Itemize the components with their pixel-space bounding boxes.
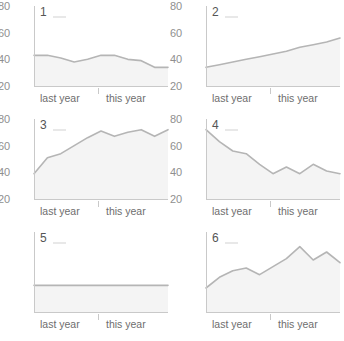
panel-number-3: 3 (40, 118, 47, 132)
y-axis-tick-label: 40 (0, 166, 28, 178)
legend-line-swatch (225, 242, 238, 244)
y-axis-tick-label: 80 (170, 113, 200, 125)
x-axis-divider-tick (98, 88, 99, 94)
x-axis-divider-tick (270, 201, 271, 207)
series-area-fill (34, 130, 168, 199)
x-axis-labels: last yearthis year (34, 316, 168, 334)
chart-panel-1: 806040201last yearthis year (0, 0, 172, 113)
chart-panel-4: 806040204last yearthis year (172, 113, 344, 226)
x-axis-labels: last yearthis year (206, 203, 340, 221)
y-axis-tick-label: 20 (0, 80, 28, 92)
plot-area-3 (34, 119, 168, 199)
legend-line-swatch (53, 16, 66, 18)
y-axis-tick-label: 40 (170, 166, 200, 178)
x-axis-labels: last yearthis year (206, 316, 340, 334)
x-axis-tick-label-this-year: this year (106, 205, 146, 217)
x-axis-tick-label-last-year: last year (40, 92, 80, 104)
x-axis-tick-label-this-year: this year (278, 92, 318, 104)
y-axis-tick-label: 40 (170, 53, 200, 65)
x-axis-tick-label-last-year: last year (40, 318, 80, 330)
plot-area-2 (206, 6, 340, 86)
x-axis-tick-label-last-year: last year (40, 205, 80, 217)
panel-number-4: 4 (212, 118, 219, 132)
series-area-fill (34, 285, 168, 312)
x-axis-tick-label-this-year: this year (278, 318, 318, 330)
chart-panel-3: 806040203last yearthis year (0, 113, 172, 226)
small-multiples-chart-grid: 806040201last yearthis year806040202last… (0, 0, 344, 341)
legend-line-swatch (53, 129, 66, 131)
legend-line-swatch (53, 242, 66, 244)
y-axis-tick-label: 60 (0, 140, 28, 152)
x-axis-tick-label-this-year: this year (106, 92, 146, 104)
y-axis-tick-label: 20 (170, 193, 200, 205)
chart-panel-5: 5last yearthis year (0, 226, 172, 339)
x-axis-labels: last yearthis year (34, 203, 168, 221)
y-axis-tick-label: 60 (0, 27, 28, 39)
x-axis-labels: last yearthis year (206, 90, 340, 108)
x-axis-divider-tick (270, 314, 271, 320)
plot-area-5 (34, 232, 168, 312)
x-axis-tick-label-last-year: last year (212, 205, 252, 217)
panel-number-2: 2 (212, 5, 219, 19)
plot-area-4 (206, 119, 340, 199)
y-axis-tick-label: 40 (0, 53, 28, 65)
panel-number-5: 5 (40, 231, 47, 245)
chart-panel-6: 6last yearthis year (172, 226, 344, 339)
x-axis-tick-label-last-year: last year (212, 92, 252, 104)
plot-area-1 (34, 6, 168, 86)
x-axis-divider-tick (98, 314, 99, 320)
x-axis-tick-label-this-year: this year (106, 318, 146, 330)
series-area-fill (206, 130, 340, 199)
x-axis-divider-tick (270, 88, 271, 94)
series-area-fill (34, 55, 168, 86)
y-axis-tick-label: 60 (170, 27, 200, 39)
y-axis-tick-label: 60 (170, 140, 200, 152)
plot-area-6 (206, 232, 340, 312)
panel-number-6: 6 (212, 231, 219, 245)
panel-number-1: 1 (40, 5, 47, 19)
x-axis-labels: last yearthis year (34, 90, 168, 108)
y-axis-tick-label: 80 (0, 113, 28, 125)
y-axis-tick-label: 80 (0, 0, 28, 12)
y-axis-tick-label: 80 (170, 0, 200, 12)
x-axis-divider-tick (98, 201, 99, 207)
series-area-fill (206, 38, 340, 86)
y-axis-tick-label: 20 (170, 80, 200, 92)
y-axis-tick-label: 20 (0, 193, 28, 205)
x-axis-tick-label-this-year: this year (278, 205, 318, 217)
legend-line-swatch (225, 16, 238, 18)
legend-line-swatch (225, 129, 238, 131)
chart-panel-2: 806040202last yearthis year (172, 0, 344, 113)
x-axis-tick-label-last-year: last year (212, 318, 252, 330)
